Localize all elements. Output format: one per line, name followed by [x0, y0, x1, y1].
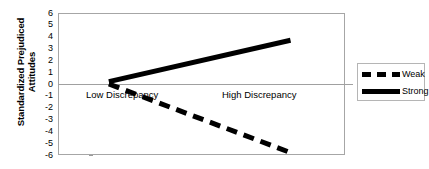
- y-axis-tick-label: 2: [34, 56, 53, 65]
- y-axis-tick-mark: [89, 155, 93, 156]
- y-axis-tick-label: -2: [34, 103, 53, 112]
- legend: Weak Strong: [357, 63, 425, 101]
- legend-swatch-weak-dashed-icon: [362, 72, 400, 77]
- y-axis-tick-label: 1: [34, 68, 53, 77]
- y-axis-tick-label: 6: [34, 9, 53, 18]
- y-axis-tick-label: -3: [34, 115, 53, 124]
- y-axis-tick-label: 3: [34, 44, 53, 53]
- y-axis-tick-labels: 6543210-1-2-3-4-5-6: [34, 13, 53, 155]
- x-category-label-high-discrepancy: High Discrepancy: [222, 89, 296, 100]
- y-axis-tick-label: -4: [34, 127, 53, 136]
- legend-item-strong[interactable]: Strong: [358, 83, 424, 100]
- y-axis-tick-label: 0: [34, 80, 53, 89]
- legend-label-strong: Strong: [402, 86, 429, 96]
- legend-item-weak[interactable]: Weak: [358, 66, 424, 83]
- y-axis-tick-label: 4: [34, 32, 53, 41]
- legend-label-weak: Weak: [402, 69, 425, 79]
- legend-swatch-strong-solid-icon: [362, 89, 400, 94]
- y-axis-title-line-1: Standardized Prejudiced: [15, 0, 26, 146]
- x-category-label-low-discrepancy: Low Discrepancy: [86, 89, 158, 100]
- y-axis-tick-label: -1: [34, 91, 53, 100]
- y-axis-tick-label: 5: [34, 20, 53, 29]
- zero-reference-line: [58, 84, 353, 85]
- y-axis-tick-label: -6: [34, 151, 53, 160]
- y-axis-tick-label: -5: [34, 139, 53, 148]
